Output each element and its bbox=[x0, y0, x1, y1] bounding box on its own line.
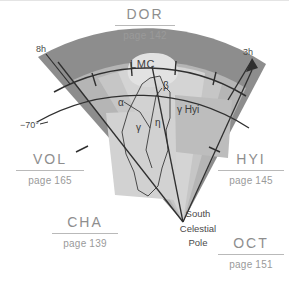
neighbour-hyi-page: page 145 bbox=[216, 175, 286, 186]
star-label-beta: β bbox=[163, 80, 169, 91]
scp-line-1: South bbox=[168, 207, 228, 222]
neighbour-oct[interactable]: OCT page 151 bbox=[216, 236, 286, 270]
declination-label-minus70: −70° bbox=[20, 120, 39, 130]
neighbour-cha[interactable]: CHA page 139 bbox=[50, 215, 120, 249]
neighbour-dor[interactable]: DOR page 142 bbox=[112, 7, 178, 41]
star-label-eta: η bbox=[155, 117, 161, 128]
star-label-gamma: γ bbox=[136, 122, 141, 133]
declination-label-leader bbox=[40, 122, 48, 124]
neighbour-hyi[interactable]: HYI page 145 bbox=[216, 152, 286, 186]
neighbour-cha-rule bbox=[52, 233, 118, 234]
star-label-alpha: α bbox=[118, 97, 124, 108]
neighbour-cha-abbr: CHA bbox=[50, 215, 120, 233]
ra-label-3h: 3h bbox=[243, 47, 253, 57]
neighbour-vol-abbr: VOL bbox=[14, 152, 86, 170]
neighbour-oct-rule bbox=[218, 254, 284, 255]
lmc-label: LMC bbox=[130, 58, 155, 70]
sky-chart: 8h 3h −70° LMC α β γ η γ Hyi South Celes… bbox=[0, 0, 289, 285]
neighbour-vol-page: page 165 bbox=[14, 175, 86, 186]
neighbour-hyi-abbr: HYI bbox=[216, 152, 286, 170]
neighbour-hyi-rule bbox=[218, 170, 284, 171]
neighbour-dor-abbr: DOR bbox=[112, 7, 178, 25]
ra-label-8h: 8h bbox=[36, 44, 46, 54]
star-label-gamma-hyi: γ Hyi bbox=[177, 104, 199, 115]
neighbour-cha-page: page 139 bbox=[50, 238, 120, 249]
neighbour-vol-rule bbox=[16, 170, 84, 171]
neighbour-vol[interactable]: VOL page 165 bbox=[14, 152, 86, 186]
neighbour-oct-abbr: OCT bbox=[216, 236, 286, 254]
neighbour-dor-rule bbox=[115, 25, 175, 26]
neighbour-dor-page: page 142 bbox=[112, 30, 178, 41]
neighbour-oct-page: page 151 bbox=[216, 259, 286, 270]
scp-line-2: Celestial bbox=[168, 222, 228, 237]
